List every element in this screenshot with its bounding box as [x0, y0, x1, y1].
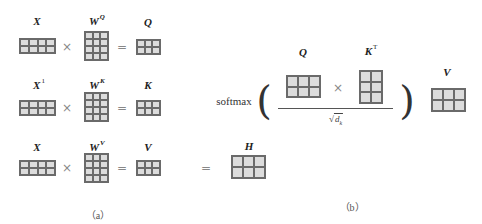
equals-sign-row3: = — [117, 162, 127, 174]
h-label: H — [245, 141, 254, 152]
left-paren: ( — [256, 80, 272, 120]
wv-label: WV — [89, 141, 104, 153]
times-sign-b: × — [333, 82, 343, 94]
x-matrix-row1 — [19, 38, 56, 54]
equals-sign-h: = — [201, 162, 211, 174]
sqrt-dk: √dk — [329, 114, 343, 126]
wv-matrix — [84, 153, 109, 183]
times-sign-row3: × — [62, 162, 72, 174]
h-matrix — [231, 155, 266, 179]
v-label-b: V — [443, 67, 450, 78]
q-matrix — [136, 39, 161, 55]
k-matrix — [136, 100, 161, 116]
v-matrix-b — [431, 88, 466, 112]
softmax-label: softmax — [216, 95, 251, 107]
x-matrix-row3 — [19, 160, 56, 176]
wq-matrix — [84, 31, 109, 61]
k-label: K — [144, 80, 151, 91]
right-paren: ) — [399, 80, 415, 120]
v-label: V — [144, 142, 151, 153]
v-matrix — [136, 160, 161, 176]
times-sign-row1: × — [62, 41, 72, 53]
kt-matrix — [359, 70, 383, 104]
equals-sign-row1: = — [117, 41, 127, 53]
caption-a: （a） — [86, 207, 110, 222]
fraction-line — [278, 108, 393, 109]
wk-matrix — [84, 92, 109, 122]
x-label-row1: X — [33, 16, 40, 27]
x-label-row2: X1 — [33, 79, 45, 91]
x-matrix-row2 — [19, 100, 56, 116]
q-label: Q — [144, 17, 152, 28]
wq-label: WQ — [89, 15, 105, 27]
q-label-b: Q — [299, 47, 307, 58]
kt-label: KT — [365, 45, 378, 57]
q-matrix-b — [286, 75, 321, 98]
x-label-row3: X — [33, 142, 40, 153]
times-sign-row2: × — [62, 102, 72, 114]
wk-label: WK — [89, 79, 104, 91]
equals-sign-row2: = — [117, 102, 127, 114]
caption-b: （b） — [340, 199, 365, 214]
